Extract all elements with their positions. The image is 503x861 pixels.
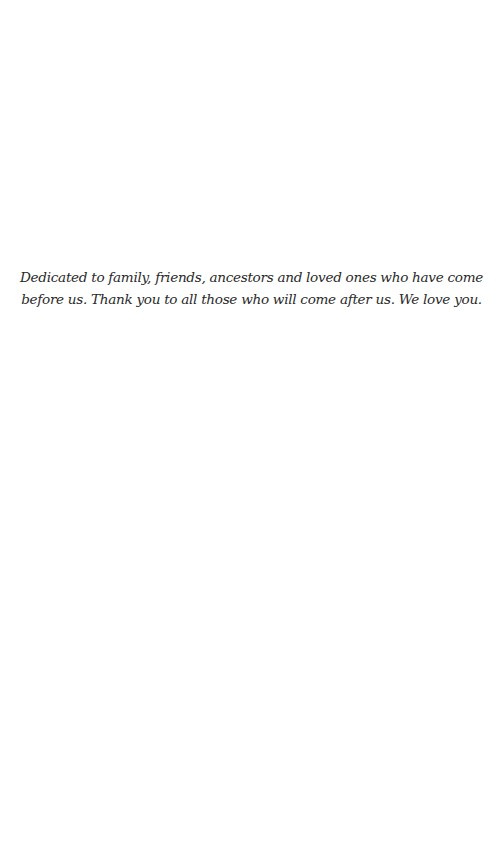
dedication-text: Dedicated to family, friends, ancestors … <box>20 266 483 310</box>
dedication-line-2: before us. Thank you to all those who wi… <box>20 288 483 310</box>
dedication-page: Dedicated to family, friends, ancestors … <box>0 0 503 861</box>
dedication-line-1: Dedicated to family, friends, ancestors … <box>20 266 483 288</box>
